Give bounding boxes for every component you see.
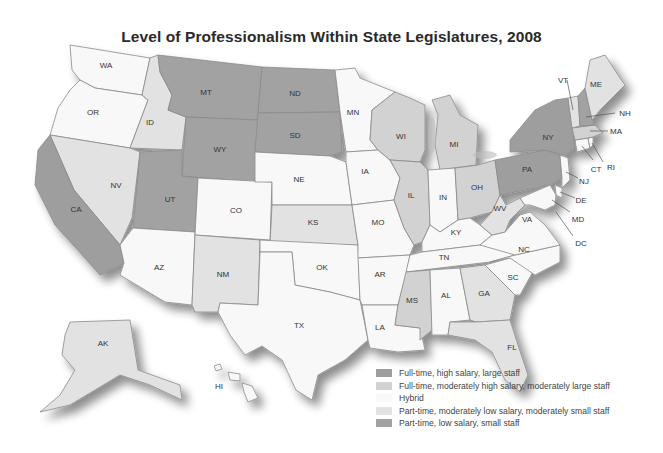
label-MD: MD xyxy=(572,215,585,224)
label-MN: MN xyxy=(347,108,360,117)
label-WY: WY xyxy=(214,145,228,154)
label-MA: MA xyxy=(610,127,623,136)
label-HI: HI xyxy=(215,382,223,391)
label-CT: CT xyxy=(591,165,602,174)
label-TN: TN xyxy=(439,253,450,262)
label-CO: CO xyxy=(230,206,242,215)
legend-label: Full-time, high salary, large staff xyxy=(399,368,520,378)
label-DE: DE xyxy=(575,196,586,205)
label-VA: VA xyxy=(522,215,533,224)
label-OR: OR xyxy=(87,108,99,117)
label-IN: IN xyxy=(439,193,447,202)
label-NV: NV xyxy=(110,181,122,190)
label-NE: NE xyxy=(293,175,304,184)
label-ND: ND xyxy=(289,89,301,98)
state-MI[interactable] xyxy=(432,95,478,170)
label-OK: OK xyxy=(316,263,328,272)
label-RI: RI xyxy=(607,163,615,172)
label-CA: CA xyxy=(70,205,82,214)
legend-item: Full-time, high salary, large staff xyxy=(376,367,610,380)
label-ME: ME xyxy=(590,80,602,89)
label-WA: WA xyxy=(100,61,113,70)
label-FL: FL xyxy=(507,343,517,352)
label-SD: SD xyxy=(289,131,300,140)
label-DC: DC xyxy=(575,239,587,248)
label-IL: IL xyxy=(408,191,415,200)
state-MA[interactable] xyxy=(572,125,603,140)
label-TX: TX xyxy=(294,321,305,330)
label-AR: AR xyxy=(374,270,385,279)
label-AL: AL xyxy=(441,291,451,300)
state-CT[interactable] xyxy=(575,138,590,152)
label-WI: WI xyxy=(396,132,406,141)
label-LA: LA xyxy=(375,323,385,332)
label-MO: MO xyxy=(372,218,385,227)
label-UT: UT xyxy=(165,195,176,204)
label-WV: WV xyxy=(494,204,508,213)
label-AZ: AZ xyxy=(154,263,164,272)
state-NJ[interactable] xyxy=(560,155,570,188)
label-NM: NM xyxy=(217,270,230,279)
legend: Full-time, high salary, large staff Full… xyxy=(376,367,610,430)
legend-label: Part-time, low salary, small staff xyxy=(399,418,520,428)
legend-swatch xyxy=(376,419,392,427)
label-IA: IA xyxy=(361,167,369,176)
state-HI-3[interactable] xyxy=(242,383,258,402)
label-NY: NY xyxy=(542,133,554,142)
label-AK: AK xyxy=(98,339,109,348)
label-KY: KY xyxy=(451,228,462,237)
label-GA: GA xyxy=(478,289,490,298)
label-OH: OH xyxy=(471,183,483,192)
legend-item: Part-time, moderately low salary, modera… xyxy=(376,405,610,418)
legend-item: Part-time, low salary, small staff xyxy=(376,417,610,430)
legend-label: Full-time, moderately high salary, moder… xyxy=(399,381,610,391)
state-AK[interactable] xyxy=(40,320,182,412)
label-MI: MI xyxy=(450,140,459,149)
label-PA: PA xyxy=(522,165,533,174)
label-MS: MS xyxy=(406,296,418,305)
label-MT: MT xyxy=(200,88,212,97)
state-NY[interactable] xyxy=(510,98,575,155)
state-HI-2[interactable] xyxy=(228,372,240,381)
legend-swatch xyxy=(376,394,392,402)
label-NH: NH xyxy=(619,109,631,118)
label-VT: VT xyxy=(558,76,568,85)
legend-item: Hybrid xyxy=(376,392,610,405)
label-SC: SC xyxy=(507,273,518,282)
label-ID: ID xyxy=(146,118,154,127)
legend-swatch xyxy=(376,382,392,390)
legend-label: Part-time, moderately low salary, modera… xyxy=(399,406,609,416)
label-NC: NC xyxy=(518,245,530,254)
legend-item: Full-time, moderately high salary, moder… xyxy=(376,380,610,393)
state-HI-1[interactable] xyxy=(214,364,222,371)
label-NJ: NJ xyxy=(579,177,589,186)
label-KS: KS xyxy=(308,218,319,227)
legend-label: Hybrid xyxy=(399,393,424,403)
legend-swatch xyxy=(376,369,392,377)
legend-swatch xyxy=(376,407,392,415)
